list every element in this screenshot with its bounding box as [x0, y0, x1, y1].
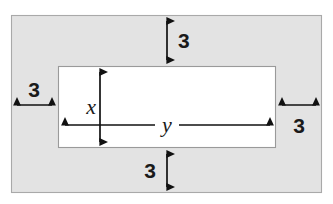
bottom-dimension-label: 3	[144, 159, 156, 182]
right-dimension-label: 3	[293, 114, 305, 137]
rectangle-border-diagram: 3 3 3 3 x y	[0, 0, 333, 204]
inner-height-label: x	[85, 94, 96, 119]
top-dimension-label: 3	[178, 29, 190, 52]
left-dimension-label: 3	[28, 78, 40, 101]
inner-width-label: y	[160, 112, 172, 137]
figure-canvas: 3 3 3 3 x y	[0, 0, 333, 204]
